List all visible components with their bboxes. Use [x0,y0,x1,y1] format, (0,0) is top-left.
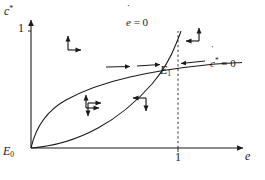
edot-equals-zero: = 0 [131,16,148,28]
nullcline-label-cdot-zero: ˙c* = 0 [210,58,236,69]
y-axis-label: c* [4,5,13,17]
edot-base: e [126,16,131,28]
direction-arrow-inner-left [88,103,101,116]
axes [31,20,243,148]
point-label-e0: E0 [3,145,14,157]
saddle-arrow-left-inner [137,65,160,67]
edot-symbol: ˙e [126,16,131,28]
y-tick-label-one: 1 [18,22,24,34]
x-axis-label: e [245,150,250,162]
saddle-path-arrows [106,61,205,67]
nullcline-label-edot-zero: ˙e = 0 [126,17,148,28]
direction-arrow-upper-right [186,28,199,41]
x-tick-label-one: 1 [175,151,181,163]
point-label-e1-sub: 1 [167,69,171,78]
phase-diagram-figure: c* 1 E0 E1 ˙e = 0 ˙c* = 0 1 e [0,0,265,180]
saddle-arrow-right-inward [181,61,205,64]
cdot-star: * [215,57,219,65]
cdot-nullcline-curve [31,63,242,149]
point-label-e1: E1 [160,64,171,76]
cdot-equals-zero: = 0 [219,57,236,69]
saddle-arrow-left-outer [106,67,130,68]
y-axis-label-sup: * [9,4,13,13]
direction-arrow-upper-left [68,36,81,50]
point-label-e0-sub: 0 [10,150,14,159]
direction-arrow-inner-right [133,98,146,111]
edot-nullcline-curve [31,31,181,148]
